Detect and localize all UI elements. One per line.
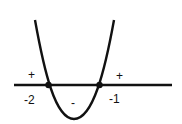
root-label-right: -1 — [109, 92, 120, 106]
root-point-left — [45, 82, 51, 88]
sign-label-left: + — [28, 68, 35, 82]
sign-chart-diagram: + -2 - -1 + — [0, 0, 182, 124]
sign-label-middle: - — [71, 96, 75, 110]
root-point-right — [96, 82, 102, 88]
root-label-left: -2 — [24, 93, 35, 107]
sign-label-right: + — [116, 69, 123, 83]
